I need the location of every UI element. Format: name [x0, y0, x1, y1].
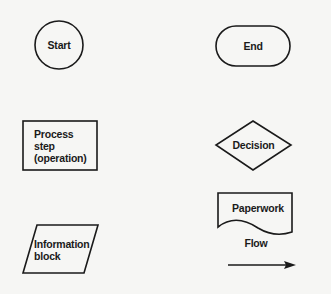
end-label: End [216, 40, 290, 52]
flow-label: Flow [236, 237, 276, 249]
information-label-line-2: block [34, 250, 90, 262]
process-label: Process step (operation) [34, 128, 87, 164]
start-label: Start [35, 39, 83, 51]
decision-label: Decision [216, 139, 291, 151]
paperwork-label: Paperwork [222, 202, 294, 214]
information-label: Information block [34, 238, 90, 262]
process-label-line-1: Process [34, 128, 87, 140]
process-label-line-2: step [34, 140, 87, 152]
information-label-line-1: Information [34, 238, 90, 250]
process-label-line-3: (operation) [34, 152, 87, 164]
